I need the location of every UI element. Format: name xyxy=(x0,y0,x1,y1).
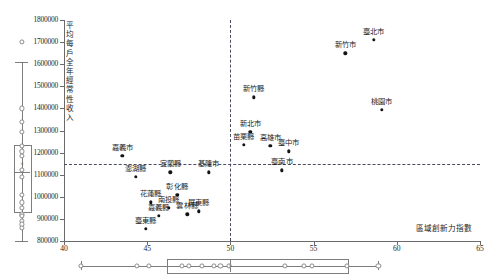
boxplot-mean-marker: × xyxy=(228,262,232,269)
scatter-point[interactable] xyxy=(197,209,200,212)
scatter-point[interactable] xyxy=(252,96,255,99)
boxplot-outlier-point xyxy=(19,129,24,134)
boxplot-mean-marker: × xyxy=(20,160,24,167)
scatter-point-label: 嘉義市 xyxy=(112,144,133,152)
scatter-point-label: 臺北市 xyxy=(363,28,384,36)
y-tick-mark xyxy=(60,64,64,65)
x-tick-mark xyxy=(480,241,481,245)
y-tick-mark xyxy=(60,42,64,43)
scatter-point[interactable] xyxy=(144,227,147,230)
boxplot-whisker-cap-top xyxy=(15,62,28,63)
scatter-point-label: 桃園市 xyxy=(371,98,392,106)
x-tick-label: 55 xyxy=(300,244,328,253)
boxplot-whisker-cap-bottom xyxy=(15,241,28,242)
scatter-point[interactable] xyxy=(380,108,383,111)
boxplot-outlier-point xyxy=(376,263,381,268)
scatter-point[interactable] xyxy=(134,175,137,178)
boxplot-outlier-point xyxy=(19,119,24,124)
chart-canvas: 8000009000001000000110000012000001300000… xyxy=(0,0,490,278)
y-tick-mark xyxy=(60,153,64,154)
scatter-point[interactable] xyxy=(280,169,283,172)
y-axis-title: 平均每戶全年經常性收入 xyxy=(66,21,78,122)
boxplot-outlier-point xyxy=(19,225,24,230)
scatter-point[interactable] xyxy=(185,213,188,216)
scatter-point-label: 基隆市 xyxy=(198,160,219,168)
x-tick-label: 50 xyxy=(216,244,244,253)
x-tick-mark xyxy=(397,241,398,245)
x-tick-mark xyxy=(314,241,315,245)
x-tick-label: 60 xyxy=(383,244,411,253)
boxplot-outlier-point xyxy=(78,263,83,268)
x-axis-line xyxy=(64,241,480,242)
scatter-point[interactable] xyxy=(287,150,290,153)
boxplot-outlier-point xyxy=(19,213,24,218)
scatter-point-label: 嘉義縣 xyxy=(148,204,169,212)
y-tick-mark xyxy=(60,86,64,87)
boxplot-iqr-box xyxy=(167,259,349,274)
x-tick-mark xyxy=(230,241,231,245)
scatter-point-label: 新竹縣 xyxy=(243,85,264,93)
boxplot-outlier-point xyxy=(135,263,140,268)
y-tick-mark xyxy=(60,219,64,220)
y-axis-line xyxy=(64,20,65,241)
scatter-point-label: 新北市 xyxy=(240,120,261,128)
boxplot-outlier-point xyxy=(19,40,24,45)
scatter-point-label: 彰化縣 xyxy=(166,183,187,191)
scatter-point-label: 臺東縣 xyxy=(135,217,156,225)
boxplot-outlier-point xyxy=(19,106,24,111)
x-tick-label: 40 xyxy=(50,244,78,253)
y-marginal-boxplot: × xyxy=(11,20,33,241)
scatter-point[interactable] xyxy=(242,143,245,146)
y-tick-mark xyxy=(60,108,64,109)
x-tick-mark xyxy=(64,241,65,245)
scatter-point[interactable] xyxy=(121,154,124,157)
x-tick-label: 45 xyxy=(133,244,161,253)
x-tick-mark xyxy=(147,241,148,245)
scatter-point-label: 宜蘭縣 xyxy=(160,160,181,168)
vertical-reference-line xyxy=(230,20,231,241)
y-tick-mark xyxy=(60,20,64,21)
scatter-point-label: 臺南市 xyxy=(271,158,292,166)
scatter-point[interactable] xyxy=(372,38,375,41)
scatter-point-label: 臺中市 xyxy=(278,139,299,147)
x-axis-title: 區域創新力指數 xyxy=(416,224,472,233)
scatter-point[interactable] xyxy=(169,171,172,174)
y-tick-mark xyxy=(60,175,64,176)
scatter-point[interactable] xyxy=(344,51,347,54)
y-tick-mark xyxy=(60,197,64,198)
scatter-point[interactable] xyxy=(157,214,160,217)
scatter-point-label: 苗栗縣 xyxy=(233,133,254,141)
scatter-point-label: 屏東縣 xyxy=(188,199,209,207)
x-tick-label: 65 xyxy=(466,244,490,253)
x-marginal-boxplot: × xyxy=(64,258,480,274)
boxplot-outlier-point xyxy=(146,263,151,268)
y-tick-mark xyxy=(60,131,64,132)
scatter-point[interactable] xyxy=(269,144,272,147)
scatter-point-label: 澎湖縣 xyxy=(125,165,146,173)
scatter-point[interactable] xyxy=(207,171,210,174)
scatter-point-label: 新竹市 xyxy=(335,41,356,49)
